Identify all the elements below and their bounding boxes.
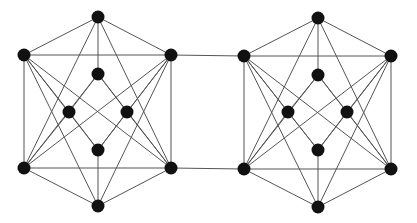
node-right-ir xyxy=(341,106,354,119)
edge-left-top-ur xyxy=(98,17,171,55)
edge-right-top-lr xyxy=(318,18,391,169)
edge-right-ib-il xyxy=(288,112,318,150)
node-left-ll xyxy=(18,162,31,175)
nodes-layer xyxy=(18,11,398,214)
bridge-edge-1 xyxy=(171,168,244,169)
edge-left-ur-bot xyxy=(98,55,171,206)
edge-right-lr-bot xyxy=(318,169,391,207)
edge-right-top-ll xyxy=(244,18,318,169)
node-left-il xyxy=(63,106,76,119)
edge-left-ll-bot xyxy=(24,168,98,206)
edges-layer xyxy=(24,17,391,207)
node-left-lr xyxy=(165,162,178,175)
node-left-ul xyxy=(18,49,31,62)
node-right-ur xyxy=(385,50,398,63)
bridge-edge-0 xyxy=(171,55,244,56)
node-left-bot xyxy=(92,200,105,213)
node-right-lr xyxy=(385,163,398,176)
edge-left-top-lr xyxy=(98,17,171,168)
edge-left-ib-il xyxy=(69,112,98,150)
edge-left-it-ir xyxy=(98,74,127,112)
node-left-ir xyxy=(121,106,134,119)
edge-right-ul-bot xyxy=(244,56,318,207)
graph-diagram xyxy=(0,0,417,223)
node-left-ur xyxy=(165,49,178,62)
node-right-il xyxy=(282,106,295,119)
node-right-ib xyxy=(312,144,325,157)
node-right-ul xyxy=(238,50,251,63)
node-right-bot xyxy=(312,201,325,214)
edge-right-ib-ir xyxy=(318,112,347,150)
edge-left-top-ll xyxy=(24,17,98,168)
edge-left-ul-bot xyxy=(24,55,98,206)
node-left-ib xyxy=(92,144,105,157)
edge-left-top-ul xyxy=(24,17,98,55)
node-right-ll xyxy=(238,163,251,176)
edge-right-ur-bot xyxy=(318,56,391,207)
node-left-top xyxy=(92,11,105,24)
edge-right-ll-bot xyxy=(244,169,318,207)
node-right-top xyxy=(312,12,325,25)
edge-right-top-ur xyxy=(318,18,391,56)
edge-left-lr-bot xyxy=(98,168,171,206)
node-right-it xyxy=(312,69,325,82)
edge-right-top-ul xyxy=(244,18,318,56)
node-left-it xyxy=(92,68,105,81)
